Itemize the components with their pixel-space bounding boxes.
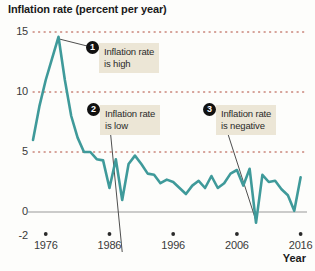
x-axis-tick-label: 2006 [215, 239, 259, 251]
annotation-callout-1-line1: Inflation rate [104, 46, 154, 58]
x-axis-title: Year [283, 252, 306, 264]
annotation-badge-3: 3 [203, 103, 216, 116]
annotation-badge-2: 2 [87, 103, 100, 116]
annotation-callout-2: Inflation rate is low [100, 105, 160, 135]
x-axis-tick-label: 1976 [24, 239, 68, 251]
x-axis-tick-label: 1996 [151, 239, 195, 251]
inflation-rate-chart-figure: Inflation rate (percent per year) 151050… [0, 0, 315, 271]
annotation-callout-3-line2: is negative [221, 120, 271, 132]
plot-area [0, 0, 315, 271]
annotation-callout-1-line2: is high [104, 58, 154, 70]
y-axis-tick-label: 15 [2, 25, 28, 37]
x-axis-tick-label: 1986 [87, 239, 131, 251]
annotation-callout-3-line1: Inflation rate [221, 108, 271, 120]
annotation-callout-2-line1: Inflation rate [105, 108, 155, 120]
x-axis-tick-marks [44, 232, 303, 236]
y-axis-tick-label: 0 [2, 205, 28, 217]
y-axis-tick-label: 10 [2, 85, 28, 97]
y-axis-tick-label: 5 [2, 145, 28, 157]
annotation-badge-1: 1 [86, 41, 99, 54]
annotation-callout-3: Inflation rate is negative [216, 105, 276, 135]
x-axis-tick-label: 2016 [279, 239, 315, 251]
annotation-callout-1: Inflation rate is high [99, 43, 159, 73]
annotation-callout-2-line2: is low [105, 120, 155, 132]
